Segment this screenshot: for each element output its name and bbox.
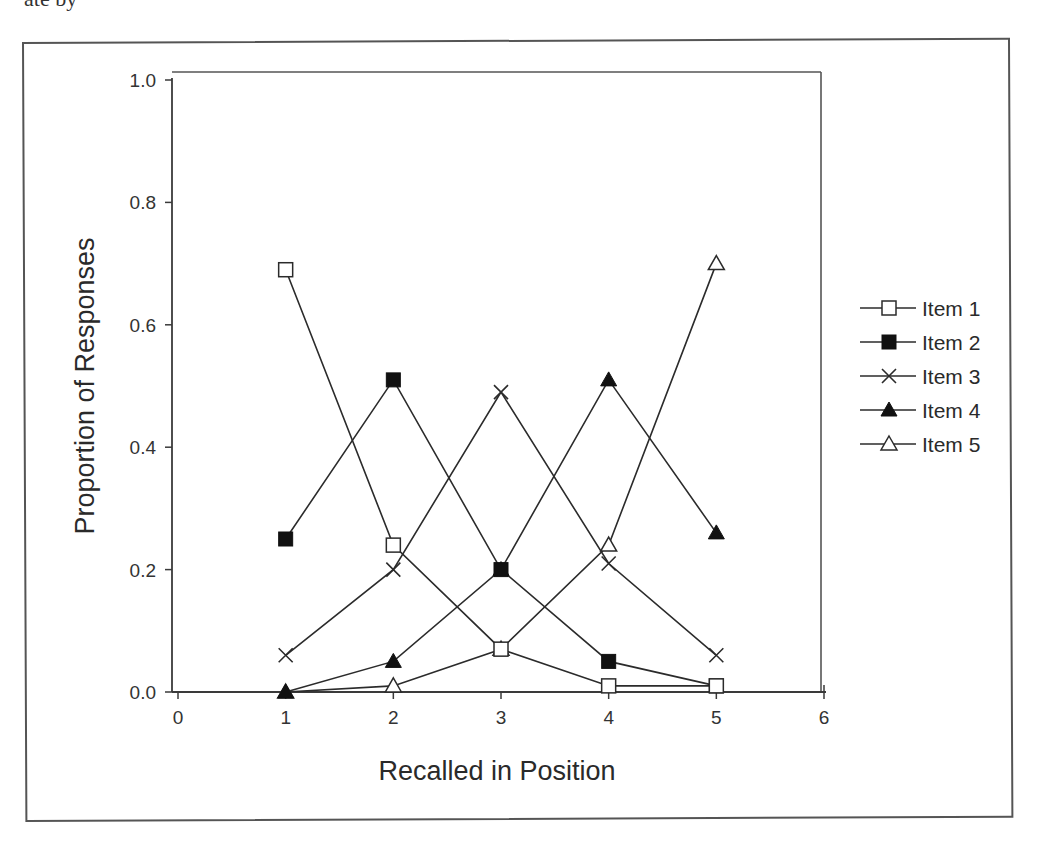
x-tick-label: 3 — [496, 707, 507, 728]
filled-square-icon — [279, 532, 293, 546]
data-point-item-1 — [279, 263, 293, 277]
series-markers — [278, 256, 725, 698]
legend-entry-item-5: Item 5 — [860, 433, 980, 456]
x-tick-label: 6 — [819, 707, 830, 728]
data-point-item-3 — [494, 385, 508, 399]
line-chart: 0.00.20.40.60.81.00123456 Recalled in Po… — [0, 0, 1054, 850]
y-tick-label: 1.0 — [130, 70, 156, 91]
legend-entry-item-1: Item 1 — [860, 297, 980, 320]
legend-label: Item 4 — [922, 399, 981, 422]
y-tick-label: 0.6 — [130, 315, 156, 336]
x-tick-label: 4 — [603, 707, 614, 728]
open-square-icon — [709, 679, 723, 693]
legend-entry-item-2: Item 2 — [860, 331, 980, 354]
open-square-icon — [602, 679, 616, 693]
filled-triangle-icon — [708, 525, 724, 539]
y-tick-label: 0.4 — [130, 437, 157, 458]
filled-square-icon — [386, 373, 400, 387]
open-square-icon — [882, 301, 896, 315]
data-point-item-5 — [601, 537, 617, 551]
series-line-item-1 — [286, 270, 717, 686]
legend-marker — [881, 436, 897, 450]
legend-marker — [881, 402, 897, 416]
legend-entry-item-4: Item 4 — [860, 399, 981, 422]
data-point-item-1 — [386, 538, 400, 552]
open-triangle-icon — [708, 256, 724, 270]
data-point-item-2 — [494, 563, 508, 577]
open-triangle-icon — [881, 436, 897, 450]
y-tick-label: 0.0 — [130, 682, 156, 703]
data-point-item-1 — [602, 679, 616, 693]
data-point-item-1 — [494, 642, 508, 656]
x-tick-label: 2 — [388, 707, 399, 728]
legend-label: Item 2 — [922, 331, 980, 354]
data-point-item-2 — [386, 373, 400, 387]
legend-label: Item 1 — [922, 297, 980, 320]
series-line-item-5 — [286, 264, 717, 692]
data-point-item-4 — [601, 372, 617, 386]
data-point-item-4 — [708, 525, 724, 539]
x-cross-icon — [602, 556, 616, 570]
data-point-item-5 — [708, 256, 724, 270]
legend: Item 1Item 2Item 3Item 4Item 5 — [860, 297, 981, 456]
filled-triangle-icon — [385, 653, 401, 667]
x-cross-icon — [386, 563, 400, 577]
y-tick-label: 0.2 — [130, 560, 156, 581]
data-point-item-3 — [279, 648, 293, 662]
open-square-icon — [386, 538, 400, 552]
data-point-item-2 — [602, 654, 616, 668]
legend-marker — [882, 335, 896, 349]
open-square-icon — [494, 642, 508, 656]
data-point-item-5 — [385, 678, 401, 692]
data-point-item-1 — [709, 679, 723, 693]
data-point-item-4 — [385, 653, 401, 667]
filled-square-icon — [602, 654, 616, 668]
legend-label: Item 3 — [922, 365, 980, 388]
open-triangle-icon — [385, 678, 401, 692]
y-axis-title: Proportion of Responses — [70, 237, 100, 534]
data-point-item-3 — [386, 563, 400, 577]
filled-triangle-icon — [881, 402, 897, 416]
legend-label: Item 5 — [922, 433, 980, 456]
x-cross-icon — [279, 648, 293, 662]
plot-area — [172, 72, 821, 692]
filled-triangle-icon — [601, 372, 617, 386]
series-lines — [286, 264, 717, 692]
x-tick-label: 1 — [280, 707, 291, 728]
x-cross-icon — [494, 385, 508, 399]
filled-square-icon — [882, 335, 896, 349]
data-point-item-2 — [279, 532, 293, 546]
x-tick-label: 0 — [173, 707, 184, 728]
open-square-icon — [279, 263, 293, 277]
open-triangle-icon — [601, 537, 617, 551]
filled-square-icon — [494, 563, 508, 577]
legend-entry-item-3: Item 3 — [860, 365, 980, 388]
x-tick-label: 5 — [711, 707, 722, 728]
x-axis-title: Recalled in Position — [378, 756, 615, 786]
x-cross-icon — [709, 648, 723, 662]
y-tick-label: 0.8 — [130, 192, 156, 213]
legend-marker — [882, 301, 896, 315]
data-point-item-3 — [602, 556, 616, 570]
data-point-item-3 — [709, 648, 723, 662]
